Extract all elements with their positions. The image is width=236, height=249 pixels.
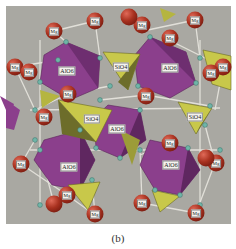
mg-atom: Mg: [60, 86, 77, 103]
mg-atom: Mg: [138, 88, 155, 105]
mg-atom: Mg: [203, 65, 220, 82]
mg-atom: Mg: [87, 206, 104, 223]
mg-atom: Mg: [188, 205, 205, 222]
sio4-tetrahedron: [160, 8, 176, 22]
mg-atom: Mg: [87, 13, 104, 30]
alo6-label: AlO6: [162, 161, 179, 170]
mg-atom: Mg: [162, 135, 179, 152]
mg-atom: Mg: [21, 64, 38, 81]
mg-atom: Mg: [162, 30, 179, 47]
sio4-label: SiO4: [187, 113, 203, 122]
sio4-label: SiO4: [113, 63, 129, 72]
mg-atom: [121, 9, 138, 26]
mg-atom: Mg: [13, 156, 30, 173]
mg-atom: Mg: [134, 195, 151, 212]
mg-atom: Mg: [187, 12, 204, 29]
alo6-label: AlO6: [60, 163, 77, 172]
mg-atom: Mg: [46, 23, 63, 40]
mg-atom: [198, 150, 215, 167]
alo6-label: AlO6: [108, 125, 125, 134]
alo6-label: AlO6: [161, 64, 178, 73]
mg-atom: Mg: [36, 109, 53, 126]
figure-caption: (b): [0, 232, 236, 244]
mg-atom: [46, 196, 63, 213]
alo6-label: AlO6: [58, 67, 75, 76]
sio4-label: SiO4: [84, 115, 100, 124]
